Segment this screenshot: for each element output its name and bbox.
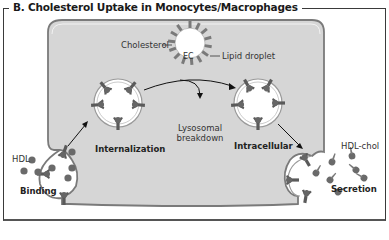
lysosomal-line1: Lysosomal <box>172 123 228 133</box>
hdl-label: HDL <box>12 154 30 164</box>
internalization-label: Internalization <box>95 144 165 154</box>
ec-label: EC <box>183 52 194 61</box>
binding-label: Binding <box>20 186 57 196</box>
cholesterol-label: Cholesterol <box>121 40 169 50</box>
secretion-label: Secretion <box>331 184 377 194</box>
intracellular-label: Intracellular <box>234 141 293 151</box>
lysosomal-line2: breakdown <box>172 133 228 143</box>
lysosomal-breakdown-label: Lysosomal breakdown <box>172 123 228 143</box>
lipid-droplet-label: Lipid droplet <box>222 51 275 61</box>
hdl-chol-label: HDL-chol <box>341 141 379 151</box>
